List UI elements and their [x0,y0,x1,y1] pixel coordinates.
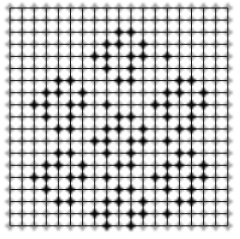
lattice-figure [0,0,240,239]
lattice-diagram-canvas [0,0,240,239]
